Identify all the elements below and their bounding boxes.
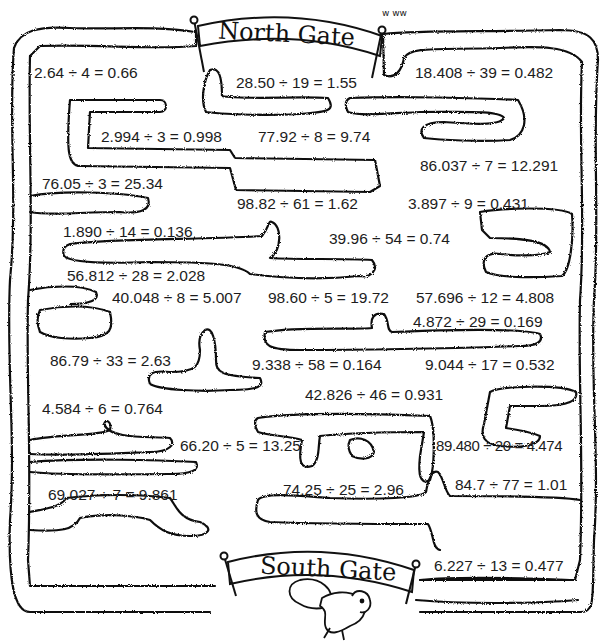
wall-segment [346, 97, 525, 141]
division-equation: 77.92 ÷ 8 = 9.74 [258, 128, 370, 146]
wall-segment [480, 209, 573, 278]
division-equation: 9.044 ÷ 17 = 0.532 [425, 356, 555, 374]
division-equation: 28.50 ÷ 19 = 1.55 [236, 74, 357, 92]
division-equation: 6.227 ÷ 13 = 0.477 [434, 557, 564, 575]
grass-doodle: w ww [382, 8, 407, 18]
division-equation: 84.7 ÷ 77 = 1.01 [455, 476, 567, 494]
division-equation: 4.584 ÷ 6 = 0.764 [42, 400, 163, 418]
division-equation: 86.037 ÷ 7 = 12.291 [420, 157, 558, 175]
wall-segment [30, 460, 197, 475]
division-equation: 66.20 ÷ 5 = 13.25 [180, 437, 301, 455]
division-equation: 9.338 ÷ 58 = 0.164 [252, 356, 382, 374]
wall-segment [30, 421, 172, 455]
division-equation: 1.890 ÷ 14 = 0.136 [63, 223, 193, 241]
division-equation: 57.696 ÷ 12 = 4.808 [416, 289, 554, 307]
division-equation: 18.408 ÷ 39 = 0.482 [415, 64, 553, 82]
division-equation: 76.05 ÷ 3 = 25.34 [42, 175, 163, 193]
division-equation: 40.048 ÷ 8 = 5.007 [112, 289, 242, 307]
division-equation: 86.79 ÷ 33 = 2.63 [50, 352, 171, 370]
division-equation: 39.96 ÷ 54 = 0.74 [329, 230, 450, 248]
division-equation: 56.812 ÷ 28 = 2.028 [67, 267, 205, 285]
wall-segment [30, 192, 149, 213]
division-equation: 2.994 ÷ 3 = 0.998 [101, 128, 222, 146]
division-equation: 3.897 ÷ 9 = 0.431 [408, 195, 529, 213]
wall-segment [30, 287, 111, 339]
division-equation: 69.027 ÷ 7 = 9.861 [48, 486, 178, 504]
division-equation: 74.25 ÷ 25 = 2.96 [283, 481, 404, 499]
division-equation: 2.64 ÷ 4 = 0.66 [34, 64, 138, 82]
wall-segment [416, 578, 578, 603]
division-equation: 98.60 ÷ 5 = 19.72 [268, 289, 389, 307]
division-equation: 98.82 ÷ 61 = 1.62 [237, 195, 358, 213]
division-equation: 42.826 ÷ 46 = 0.931 [305, 386, 443, 404]
squirrel-illustration [290, 579, 371, 640]
division-equation: 4.872 ÷ 29 = 0.169 [413, 313, 543, 331]
division-equation: 89.480 ÷ 20 = 4.474 [436, 437, 562, 454]
